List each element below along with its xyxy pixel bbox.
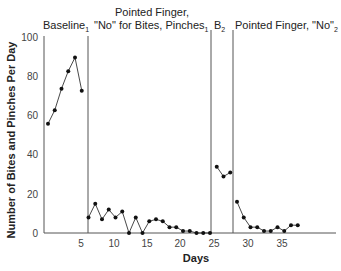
data-point	[66, 69, 70, 73]
series-line-phase-2	[89, 204, 211, 233]
data-point	[215, 165, 219, 169]
x-tick: 15	[141, 238, 153, 249]
data-point	[242, 215, 246, 219]
phase-label-b2: B2	[214, 19, 225, 33]
x-tick: 20	[174, 238, 186, 249]
phase-label-pointed-finger-1-line1: Pointed Finger,	[115, 6, 189, 18]
data-point	[255, 225, 259, 229]
data-point	[195, 231, 199, 235]
y-tick: 20	[27, 189, 39, 200]
data-point	[208, 231, 212, 235]
data-point	[134, 215, 138, 219]
data-point	[147, 219, 151, 223]
data-point	[114, 215, 118, 219]
y-tick: 80	[27, 71, 39, 82]
data-point	[201, 231, 205, 235]
data-point	[269, 229, 273, 233]
y-tick: 60	[27, 110, 39, 121]
data-point	[235, 200, 239, 204]
series-line-phase-1	[48, 58, 82, 124]
data-point	[141, 231, 145, 235]
phase-label-baseline: Baseline1	[43, 19, 89, 33]
x-tick: 10	[108, 238, 120, 249]
data-point	[73, 56, 77, 60]
y-tick: 40	[27, 149, 39, 160]
y-tick: 0	[32, 228, 38, 239]
data-point	[276, 225, 280, 229]
x-tick: 25	[208, 238, 220, 249]
data-point	[161, 219, 165, 223]
y-tick: 100	[21, 32, 38, 43]
data-point	[93, 202, 97, 206]
data-point	[154, 217, 158, 221]
data-point	[168, 225, 172, 229]
x-axis-title: Days	[183, 252, 209, 264]
data-point	[282, 229, 286, 233]
data-point	[262, 229, 266, 233]
x-tick: 5	[78, 238, 84, 249]
phase-label-pointed-finger-1-line2: "No" for Bites, Pinches1	[94, 19, 209, 33]
data-point	[53, 108, 57, 112]
data-point	[188, 229, 192, 233]
data-point	[127, 231, 131, 235]
phase-label-pointed-finger-2: Pointed Finger, "No"2	[235, 19, 338, 33]
data-point	[107, 208, 111, 212]
data-point	[46, 122, 50, 126]
series-line-phase-4	[237, 202, 298, 231]
data-point	[174, 225, 178, 229]
data-point	[222, 174, 226, 178]
data-point	[289, 223, 293, 227]
line-chart: 0 20 40 60 80 100 5 10 15 20 25 30 35 Da…	[0, 0, 341, 271]
data-point	[249, 225, 253, 229]
y-tick-labels: 0 20 40 60 80 100	[21, 32, 38, 239]
x-tick-labels: 5 10 15 20 25 30 35	[78, 238, 288, 249]
data-point	[87, 215, 91, 219]
data-point	[60, 87, 64, 91]
data-point	[181, 229, 185, 233]
data-point	[120, 210, 124, 214]
data-series	[46, 56, 300, 236]
y-axis-title: Number of Bites and Pinches Per Day	[5, 41, 17, 239]
data-point	[296, 223, 300, 227]
data-point	[228, 171, 232, 175]
data-point	[80, 89, 84, 93]
x-tick: 30	[242, 238, 254, 249]
data-point	[100, 217, 104, 221]
x-tick: 35	[276, 238, 288, 249]
